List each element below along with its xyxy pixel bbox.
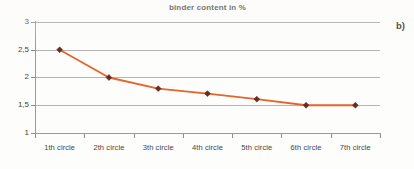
x-tick-4 [232,134,233,138]
figure-panel: binder content in % b) 3 2,5 2 1,5 1 1th… [0,0,414,169]
x-tick-1 [84,134,85,138]
gridline-1-5 [35,105,380,106]
x-tick-label-3: 3th circle [134,143,183,152]
gridline-2-5 [35,50,380,51]
x-tick-label-6: 6th circle [281,143,330,152]
x-tick-5 [281,134,282,138]
x-tick-7 [380,134,381,138]
x-tick-label-7: 7th circle [331,143,380,152]
chart-title: binder content in % [35,3,380,12]
y-tick-3 [31,22,36,23]
plot-area [35,22,380,133]
y-tick-label-1-5: 1,5 [3,101,29,109]
x-tick-6 [331,134,332,138]
y-tick-2 [31,77,36,78]
x-tick-label-1: 1th circle [35,143,84,152]
x-tick-0 [35,134,36,138]
y-tick-label-2: 2 [3,73,29,81]
x-tick-label-5: 5th circle [232,143,281,152]
y-tick-label-3: 3 [3,18,29,26]
y-tick-2-5 [31,50,36,51]
x-tick-label-4: 4th circle [183,143,232,152]
gridline-2 [35,77,380,78]
x-tick-label-2: 2th circle [84,143,133,152]
x-axis-line [35,133,381,134]
y-axis-labels: 3 2,5 2 1,5 1 [0,0,29,169]
y-tick-label-1: 1 [3,129,29,137]
x-tick-2 [134,134,135,138]
panel-label: b) [396,20,405,31]
x-tick-3 [183,134,184,138]
gridline-3 [35,22,380,23]
y-tick-label-2-5: 2,5 [3,46,29,54]
y-tick-1-5 [31,105,36,106]
